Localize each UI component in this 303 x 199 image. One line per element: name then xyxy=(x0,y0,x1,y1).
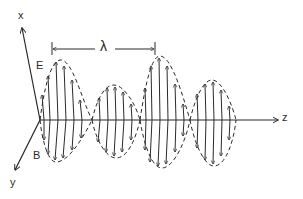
x-axis xyxy=(22,28,40,120)
magnetic-field-label: B xyxy=(33,150,40,161)
x-axis-label: x xyxy=(18,10,24,21)
y-axis xyxy=(15,120,40,170)
z-axis-label: z xyxy=(282,112,288,123)
magnetic-field xyxy=(40,120,236,168)
y-axis-label: y xyxy=(10,177,16,188)
em-wave-diagram: x y z E B λ xyxy=(0,0,303,199)
diagram-svg xyxy=(0,0,303,199)
electric-field xyxy=(40,56,236,120)
electric-field-label: E xyxy=(36,60,43,71)
wavelength-label: λ xyxy=(100,39,107,53)
